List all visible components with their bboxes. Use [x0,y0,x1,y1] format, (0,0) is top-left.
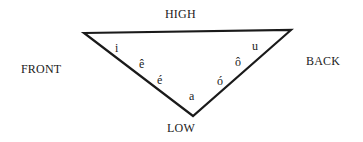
label-low: LOW [167,122,195,134]
vowel-a: a [189,90,194,102]
label-back: BACK [306,55,340,67]
vowel-o-acute: ó [217,75,223,87]
vowel-e-acute: é [157,74,162,86]
vowel-o-circumflex: ô [235,56,241,68]
label-high: HIGH [165,8,196,20]
label-front: FRONT [21,63,61,75]
vowel-e-circumflex: ê [139,58,144,70]
vowel-i: i [115,42,118,54]
vowel-triangle-diagram: HIGH LOW FRONT BACK i ê é a ó ô u [0,0,363,142]
vowel-u: u [252,40,258,52]
